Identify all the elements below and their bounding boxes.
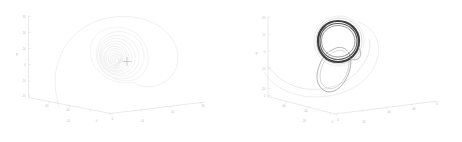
- left-y-tick-label: -20: [22, 94, 26, 98]
- left-depth-tick-label: -30: [45, 104, 49, 108]
- right-x-tick-label: 20: [363, 120, 366, 124]
- right-x-tick-label: 60: [413, 107, 416, 111]
- right-depth-tick-label: -40: [304, 109, 308, 113]
- right-y-tick-label: 10: [262, 33, 265, 37]
- right-x-tick-label: 40: [388, 110, 391, 114]
- right-y-tick-label: 20: [262, 16, 265, 20]
- right-y-tick-label: -20: [261, 87, 265, 91]
- right-x-axis-ticks: 0 20 40 60 0: [337, 101, 438, 123]
- right-trajectory: [264, 16, 379, 97]
- left-y-tick-label: -10: [22, 79, 26, 83]
- left-trajectory: [55, 16, 178, 107]
- right-y-tick-label: -10: [261, 67, 265, 71]
- right-depth-axis-ticks: -60 -40 -20 0: [282, 101, 334, 123]
- right-axes-spines: [268, 17, 438, 114]
- right-y-axis-title: Y: [255, 52, 258, 56]
- right-depth-tick-label: -20: [302, 119, 306, 123]
- left-y-tick-label: 10: [23, 47, 26, 51]
- left-y-tick-label: 0: [24, 63, 26, 67]
- left-depth-tick-label: 0: [96, 119, 98, 123]
- right-y-tick-label: 0: [264, 94, 266, 98]
- left-y-tick-label: 20: [23, 31, 26, 35]
- left-y-axis-title: Y: [16, 53, 19, 57]
- left-x-tick-label: 30: [202, 104, 205, 108]
- left-x-tick-label: 20: [171, 110, 174, 114]
- left-depth-tick-label: -20: [66, 108, 70, 112]
- left-depth-axis-ticks: -30 -20 -10 0: [45, 102, 110, 124]
- right-depth-tick-label: 0: [332, 120, 334, 124]
- left-axes-spines: [29, 16, 206, 114]
- left-x-tick-label: 10: [141, 119, 144, 123]
- right-y-axis-ticks: 20 10 0 -10 -20 0: [261, 16, 270, 98]
- right-y-tick-label: 0: [264, 50, 266, 54]
- plot-panel-left[interactable]: 30 20 10 0 -10 -20 Y -30 -20 -10 0: [0, 0, 231, 142]
- left-x-axis-ticks: 0 10 20 30: [112, 102, 205, 122]
- left-x-tick-label: 0: [112, 117, 114, 121]
- plot-panel-right[interactable]: 20 10 0 -10 -20 0 Y -60 -40 -20 0: [231, 0, 462, 142]
- right-x-tick-label: 0: [337, 118, 339, 122]
- right-plot-svg: 20 10 0 -10 -20 0 Y -60 -40 -20 0: [231, 0, 462, 142]
- right-depth-tick-label: -60: [282, 104, 286, 108]
- left-y-axis-ticks: 30 20 10 0 -10 -20: [22, 15, 31, 99]
- right-x-tick-label: 0: [436, 102, 438, 106]
- left-y-tick-label: 30: [23, 15, 26, 19]
- left-plot-svg: 30 20 10 0 -10 -20 Y -30 -20 -10 0: [0, 0, 231, 142]
- left-depth-tick-label: -10: [66, 119, 70, 123]
- figure-container: 30 20 10 0 -10 -20 Y -30 -20 -10 0: [0, 0, 462, 142]
